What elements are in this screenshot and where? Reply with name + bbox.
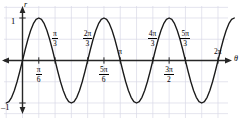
y-axis-arrow-down [20, 107, 26, 114]
x-tick-label-above-denominator: 3 [148, 40, 158, 48]
x-tick-label-above-text: π [118, 47, 122, 56]
x-tick-label-above: 5π3 [180, 30, 190, 47]
x-tick-label-below-numerator: 5π [99, 66, 109, 74]
x-tick-label-above: π [118, 48, 122, 56]
x-axis-arrow [225, 58, 232, 64]
x-tick-label-below-numerator: 3π [164, 66, 174, 74]
x-tick-label-above-denominator: 3 [83, 40, 93, 48]
x-tick-label-above-numerator: 4π [148, 30, 158, 38]
x-tick-label-below: 3π2 [164, 66, 174, 83]
x-tick-label-below-denominator: 6 [36, 76, 42, 84]
x-tick-label-above: 2π [214, 48, 222, 56]
x-tick-label-above-numerator: π [52, 30, 58, 38]
x-tick-label-below: 5π6 [99, 66, 109, 83]
x-tick-label-above-denominator: 3 [52, 40, 58, 48]
axes-group [2, 6, 232, 114]
x-tick-label-above-denominator: 3 [180, 40, 190, 48]
x-tick-label-above: π3 [52, 30, 58, 47]
x-tick-label-above-numerator: 5π [180, 30, 190, 38]
x-tick-label-below-denominator: 6 [99, 76, 109, 84]
x-tick-label-above-text: 2π [214, 47, 222, 56]
x-tick-label-above: 4π3 [148, 30, 158, 47]
graph-figure: r θ 1 –1 π32π3π4π35π32ππ65π63π2 [0, 0, 242, 128]
x-axis-label: θ [234, 55, 238, 63]
x-tick-label-above-numerator: 2π [83, 30, 93, 38]
x-tick-label-below-numerator: π [36, 66, 42, 74]
y-tick-label-minus-1: –1 [1, 103, 10, 112]
y-axis-label: r [24, 1, 27, 9]
x-tick-label-below-denominator: 2 [164, 76, 174, 84]
x-axis-arrow-left [2, 58, 9, 64]
x-tick-label-below: π6 [36, 66, 42, 83]
plot-canvas [0, 0, 242, 128]
y-tick-label-1: 1 [11, 17, 15, 26]
gridlines [4, 6, 228, 118]
x-tick-label-above: 2π3 [83, 30, 93, 47]
